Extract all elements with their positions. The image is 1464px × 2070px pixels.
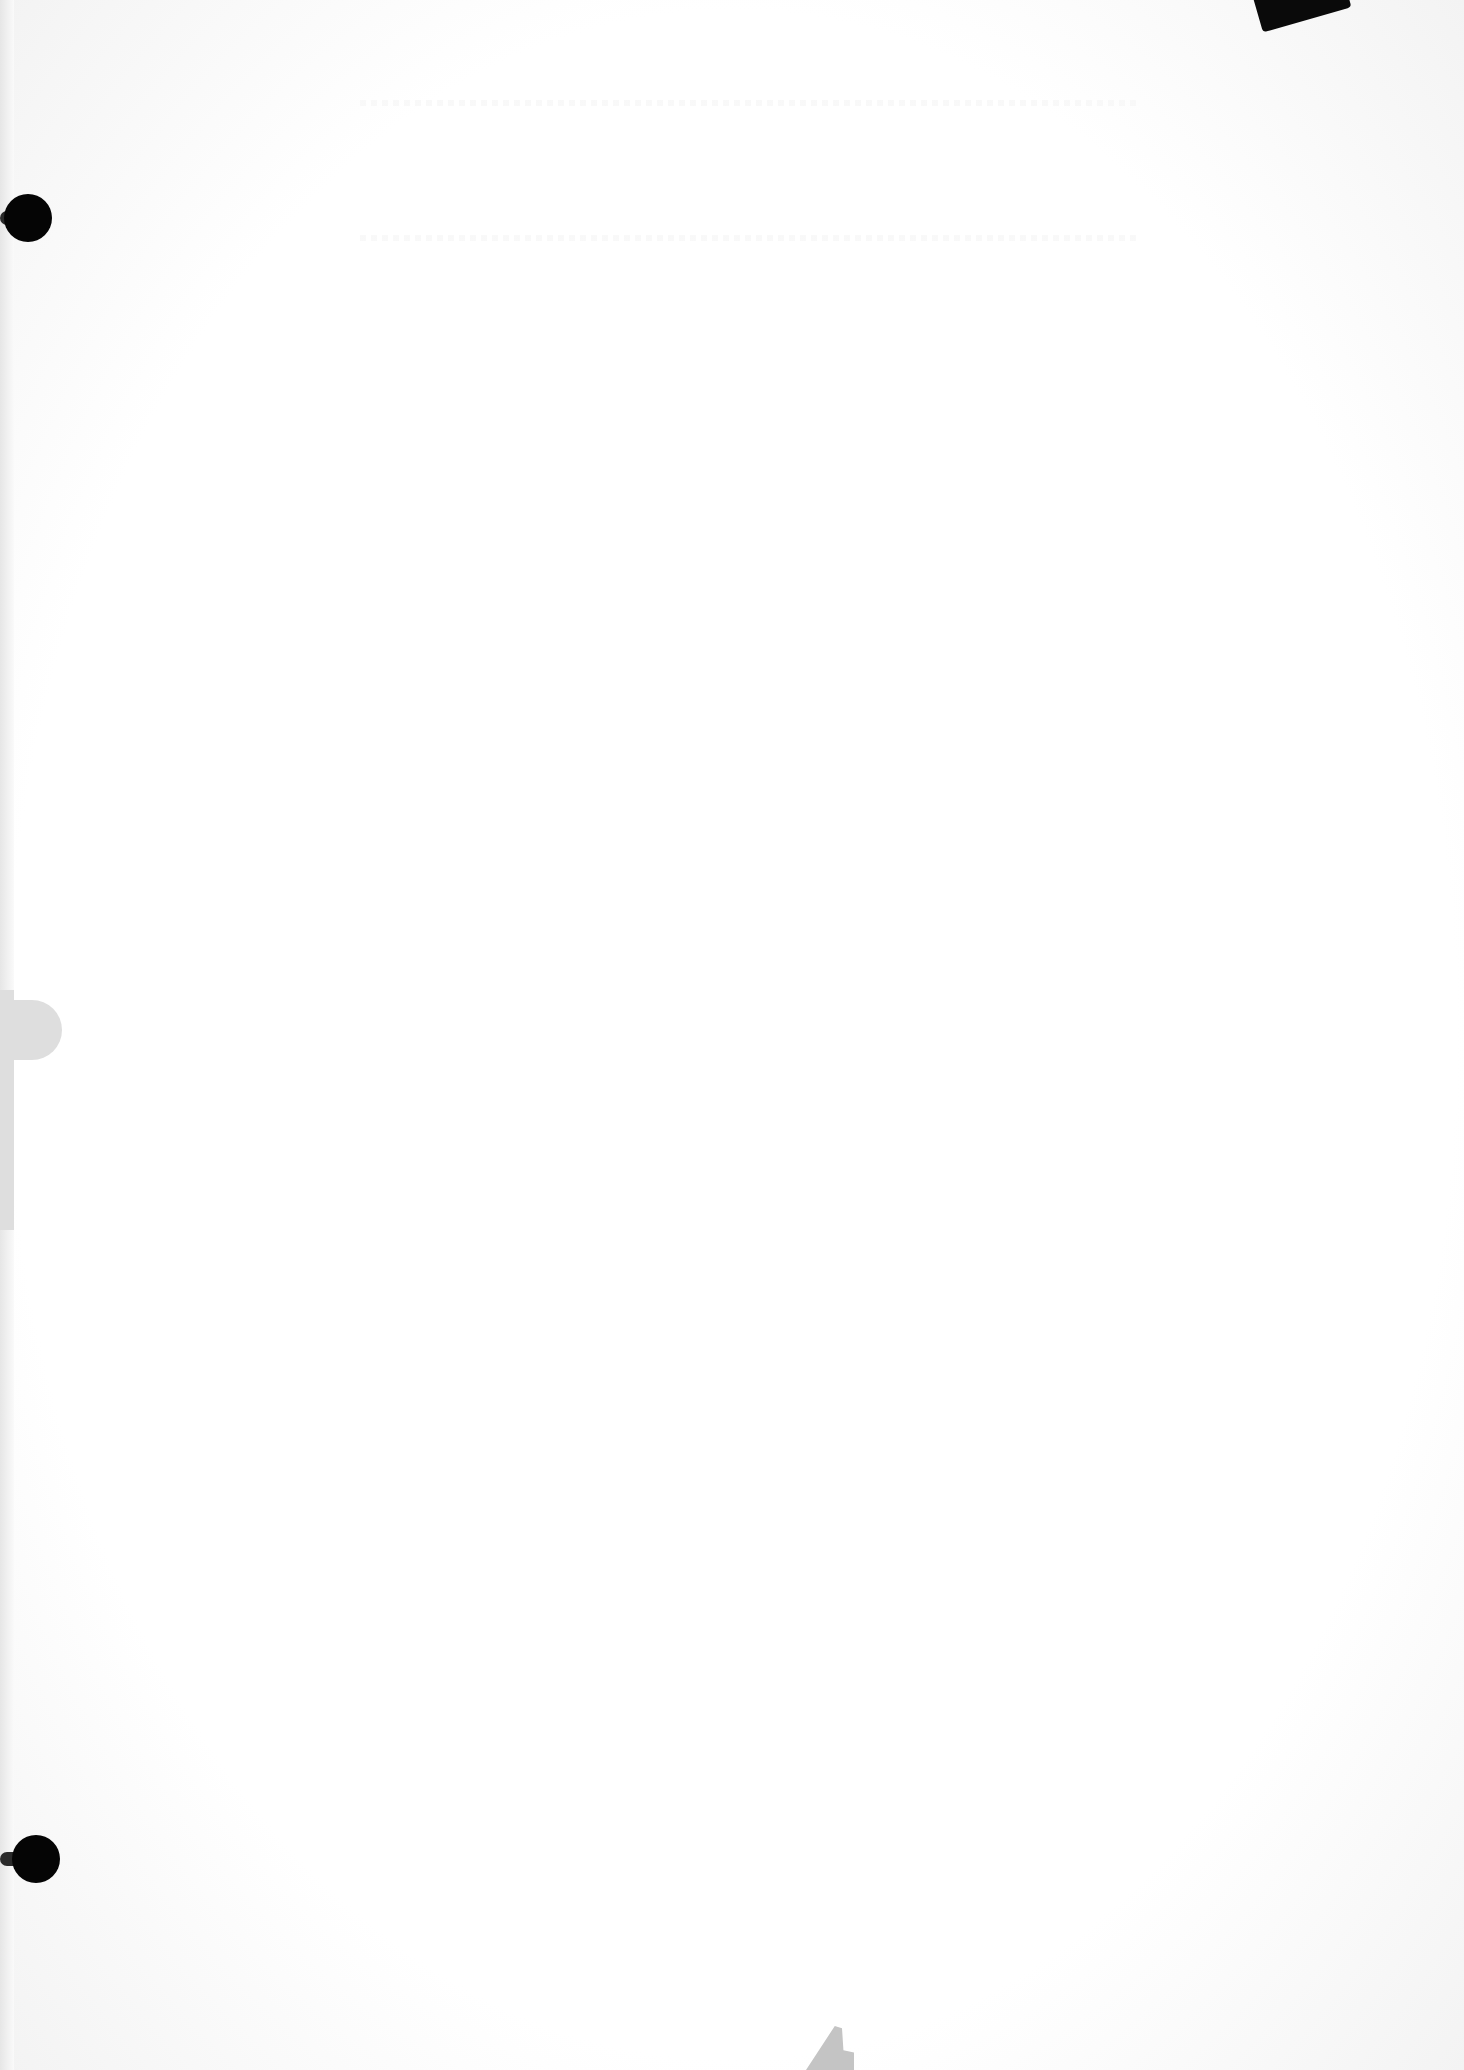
corner-tab xyxy=(1252,0,1351,32)
bleed-through-text-line xyxy=(360,100,1140,106)
bottom-mark xyxy=(806,2026,854,2070)
punch-hole-bottom xyxy=(12,1835,60,1883)
scanned-page xyxy=(0,0,1464,2070)
bleed-through-text-line xyxy=(360,235,1140,241)
binding-tab-cap xyxy=(0,1000,62,1060)
punch-hole-top xyxy=(4,194,52,242)
